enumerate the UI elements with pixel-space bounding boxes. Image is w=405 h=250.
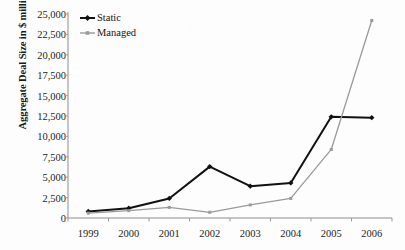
plot-area: [0, 0, 405, 250]
data-point-static-2006[interactable]: [369, 115, 374, 120]
legend-label-managed: Managed: [97, 27, 136, 38]
legend-label-static: Static: [97, 12, 121, 23]
data-point-managed-2002[interactable]: [208, 211, 211, 214]
legend-swatch: [85, 15, 91, 21]
x-axis-tick-2004: 2004: [280, 228, 301, 239]
legend-marker-static[interactable]: [80, 15, 95, 21]
data-point-managed-2006[interactable]: [370, 19, 373, 22]
x-axis-tick-2000: 2000: [118, 228, 139, 239]
x-axis-tick-2001: 2001: [159, 228, 180, 239]
data-point-managed-2000[interactable]: [127, 209, 130, 212]
chart-container: Aggregate Deal Size in $ millions 25,000…: [0, 0, 405, 250]
x-axis-tick-2005: 2005: [321, 228, 342, 239]
x-axis-tick-1999: 1999: [78, 228, 99, 239]
series-static: [86, 114, 375, 214]
legend-swatch: [86, 31, 90, 35]
x-axis-tick-2002: 2002: [199, 228, 220, 239]
data-point-managed-1999[interactable]: [87, 212, 90, 215]
series-line-static: [88, 117, 372, 212]
legend-marker-managed[interactable]: [80, 31, 95, 35]
x-axis-tick-2003: 2003: [240, 228, 261, 239]
data-point-managed-2003[interactable]: [249, 203, 252, 206]
data-point-managed-2001[interactable]: [168, 206, 171, 209]
data-point-managed-2005[interactable]: [330, 148, 333, 151]
data-point-managed-2004[interactable]: [289, 197, 292, 200]
x-axis-tick-2006: 2006: [361, 228, 382, 239]
